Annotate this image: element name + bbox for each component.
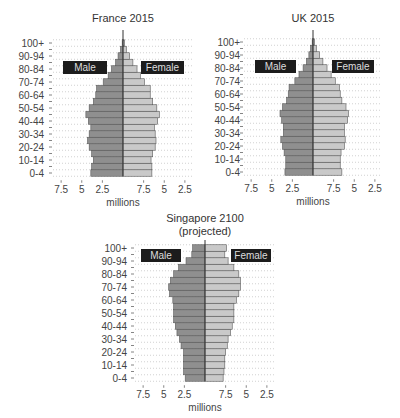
female-bar-35-39	[205, 329, 231, 336]
male-bar-25-29	[181, 342, 205, 349]
y-tick-label: 60-64	[101, 295, 127, 306]
female-bar-45-49	[205, 316, 234, 323]
chart-title: Singapore 2100	[166, 212, 244, 224]
male-bar-85-89	[179, 264, 205, 271]
female-bar-60-64	[205, 297, 236, 304]
male-bar-0-4	[185, 375, 205, 382]
male-bar-50-54	[174, 310, 205, 317]
male-bar-30-34	[179, 336, 205, 343]
male-bar-70-74	[169, 284, 205, 291]
male-bar-15-19	[184, 355, 205, 362]
singapore-2100-chart: Singapore 2100(projected)100+90-9480-847…	[0, 0, 400, 418]
pyramid-singapore: Singapore 2100(projected)100+90-9480-847…	[0, 0, 400, 418]
female-bar-100+	[205, 245, 226, 252]
female-bar-15-19	[205, 355, 225, 362]
male-bar-10-14	[184, 362, 205, 369]
y-tick-label: 80-84	[101, 269, 127, 280]
female-bar-30-34	[205, 336, 228, 343]
y-tick-label: 20-24	[101, 347, 127, 358]
female-bar-50-54	[205, 310, 234, 317]
y-tick-label: 70-74	[101, 282, 127, 293]
female-bar-70-74	[205, 284, 240, 291]
y-tick-label: 30-34	[101, 334, 127, 345]
male-bar-45-49	[174, 316, 205, 323]
female-bar-95-99	[205, 251, 225, 258]
x-axis-label: millions	[188, 402, 221, 413]
male-bar-5-9	[184, 368, 205, 375]
male-bar-75-79	[170, 277, 205, 284]
male-bar-65-69	[170, 290, 205, 297]
y-tick-label: 10-14	[101, 360, 127, 371]
female-bar-90-94	[205, 258, 228, 265]
female-bar-5-9	[205, 368, 224, 375]
male-bar-55-59	[174, 303, 205, 310]
x-tick-label: 5	[243, 389, 249, 400]
female-bar-80-84	[205, 271, 239, 278]
y-tick-label: 0-4	[113, 373, 128, 384]
male-bar-35-39	[177, 329, 205, 336]
male-bar-40-44	[175, 323, 205, 330]
female-bar-0-4	[205, 375, 223, 382]
female-bar-10-14	[205, 362, 225, 369]
male-bar-60-64	[173, 297, 205, 304]
x-tick-label: 5	[161, 389, 167, 400]
male-bar-95-99	[192, 251, 205, 258]
female-bar-75-79	[205, 277, 240, 284]
female-bar-85-89	[205, 264, 234, 271]
male-bar-80-84	[174, 271, 205, 278]
female-bar-40-44	[205, 323, 232, 330]
x-tick-label: 2.5	[177, 389, 191, 400]
chart-subtitle: (projected)	[179, 225, 232, 237]
y-tick-label: 100+	[104, 243, 127, 254]
y-tick-label: 50-54	[101, 308, 127, 319]
female-legend-label: Female	[234, 250, 268, 261]
female-bar-25-29	[205, 342, 227, 349]
male-bar-100+	[193, 245, 205, 252]
x-tick-label: 7.5	[136, 389, 150, 400]
female-bar-55-59	[205, 303, 234, 310]
female-bar-20-24	[205, 349, 226, 356]
female-bar-65-69	[205, 290, 239, 297]
male-legend-label: Male	[150, 250, 172, 261]
male-bar-20-24	[184, 349, 205, 356]
x-tick-label: 2.5	[260, 389, 274, 400]
male-bar-90-94	[186, 258, 205, 265]
x-tick-label: 7.5	[219, 389, 233, 400]
y-tick-label: 40-44	[101, 321, 127, 332]
y-tick-label: 90-94	[101, 256, 127, 267]
